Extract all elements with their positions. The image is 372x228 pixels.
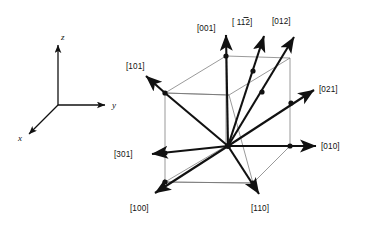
direction-101-node xyxy=(162,90,167,95)
direction-100-node xyxy=(162,179,167,184)
direction-112-arrow xyxy=(228,36,264,146)
direction-301-node xyxy=(162,150,167,155)
direction-101-label: [101] xyxy=(126,62,145,71)
direction-010-node xyxy=(287,143,292,148)
direction-021-label: [021] xyxy=(319,85,338,94)
direction-110-arrow xyxy=(228,146,259,194)
z-axis-label: z xyxy=(60,32,65,42)
direction-012-node xyxy=(259,89,264,94)
x-axis-label: x xyxy=(17,133,22,143)
direction-110-label: [110] xyxy=(251,204,269,213)
direction-101-stem xyxy=(165,93,228,146)
direction-021-arrow xyxy=(228,90,314,146)
coordinate-axis-triad: z y x xyxy=(17,32,116,143)
direction-100-label: [100] xyxy=(130,204,149,213)
direction-101-arrow xyxy=(146,76,165,93)
direction-112-node xyxy=(250,68,255,73)
figure-canvas: z y x xyxy=(0,0,372,228)
direction-112-label: [ 112] xyxy=(232,18,252,27)
crystallographic-direction-figure: z y x xyxy=(0,0,372,228)
direction-vectors xyxy=(146,35,316,194)
x-axis-line xyxy=(29,105,58,134)
cube-edge-bottom-front xyxy=(165,182,253,183)
direction-010-label: [010] xyxy=(321,142,340,151)
direction-301-label: [301] xyxy=(114,150,133,159)
direction-001-label: [001] xyxy=(197,24,216,33)
direction-021-node xyxy=(288,100,293,105)
y-axis-label: y xyxy=(111,100,116,110)
direction-001-node xyxy=(223,53,228,58)
direction-110-node xyxy=(250,180,255,185)
direction-012-label: [012] xyxy=(272,17,291,26)
unit-cell-origin-node xyxy=(225,143,231,149)
cube-edge-top-front xyxy=(165,93,229,95)
